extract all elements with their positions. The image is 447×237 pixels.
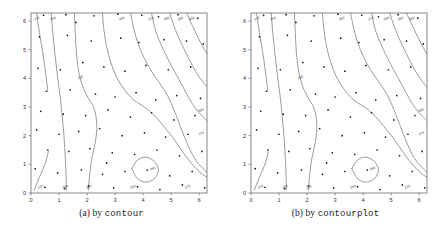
y-tick-label: 4 [243,75,246,81]
data-point [82,62,84,64]
data-point [383,39,385,41]
data-point [357,186,359,188]
contour-level-label: 325 [397,16,404,22]
contour-line [294,13,316,190]
panel-b-contourplot: 1751752002002252252502502752752753003003… [224,0,447,237]
y-tick-label: 1 [243,161,246,167]
x-tick-label: 1 [57,197,60,203]
data-point [414,115,416,117]
data-point [179,155,181,157]
data-point [295,22,297,24]
data-point [130,116,132,118]
x-tick-label: 3 [334,197,337,203]
y-tick-label: 0 [243,190,246,196]
data-point [333,187,335,189]
data-point [93,15,95,17]
data-point [310,40,312,42]
data-point [354,153,356,155]
data-point [151,112,153,114]
data-point [289,89,291,91]
data-point [341,135,343,137]
data-point [401,184,403,186]
x-tick-label: 0 [29,197,32,203]
data-point [331,152,333,154]
data-point [254,168,256,170]
contour-line [37,13,48,91]
data-point [95,93,97,95]
data-point [114,96,116,98]
data-point [75,22,77,24]
data-point [113,187,115,189]
data-point [190,66,192,68]
data-point [361,14,363,16]
data-point [424,187,426,189]
data-point [85,115,87,117]
data-point [167,69,169,71]
data-point [264,186,266,188]
data-point [375,99,377,101]
data-point [406,40,408,42]
data-point [107,109,109,111]
x-tick-label: 2 [305,197,308,203]
x-tick-label: 6 [198,197,201,203]
data-point [177,14,179,16]
contour-level-label: 350 [188,16,195,22]
data-point [396,95,398,97]
contour-line [372,13,427,121]
contour-level-label: 325 [177,16,184,22]
data-point [267,149,269,151]
data-point [385,136,387,138]
contour-level-label: 200 [270,16,277,22]
contour-line [152,13,207,121]
contour-line [170,13,207,87]
data-point [57,172,59,174]
data-point [379,189,381,191]
data-point [103,66,105,68]
data-point [78,131,80,133]
data-point [365,65,367,67]
data-point [309,148,311,150]
contour-layer: 1751752002002252252502502752752753003003… [253,13,427,190]
plot-frame [31,13,207,193]
contour-level-label: 350 [408,16,415,22]
contour-level-label: 275 [368,16,375,22]
data-point [46,90,48,92]
data-point [266,90,268,92]
data-point [376,149,378,151]
contour-comparison-figure: 1751752002002252252502502752752753003003… [0,0,447,237]
data-point [145,65,147,67]
data-point [43,14,45,16]
y-tick-label: 3 [243,104,246,110]
data-point [124,70,126,72]
data-point [39,36,41,38]
data-point [278,133,280,135]
data-point [120,37,122,39]
contour-line [271,13,286,190]
x-tick-label: 2 [85,197,88,203]
data-point [176,95,178,97]
data-point [135,92,137,94]
data-point [155,99,157,101]
data-point [315,93,317,95]
y-tick-label: 4 [23,75,26,81]
data-point [277,172,279,174]
data-point [260,110,262,112]
data-point [47,149,49,151]
contour-layer: 1751752002002252252502502752752753003003… [33,13,207,190]
data-point [259,36,261,38]
data-point [111,152,113,154]
contour-level-label: 200 [282,184,289,190]
data-point [200,98,202,100]
data-point [134,153,136,155]
data-point [106,162,108,164]
data-point [423,43,425,45]
data-point [298,131,300,133]
data-point [186,40,188,42]
contour-level-label: 250 [130,184,137,190]
data-point [99,128,101,130]
data-point [344,70,346,72]
data-point [387,69,389,71]
data-point [191,171,193,173]
y-tick-label: 5 [23,47,26,53]
data-point [407,133,409,135]
